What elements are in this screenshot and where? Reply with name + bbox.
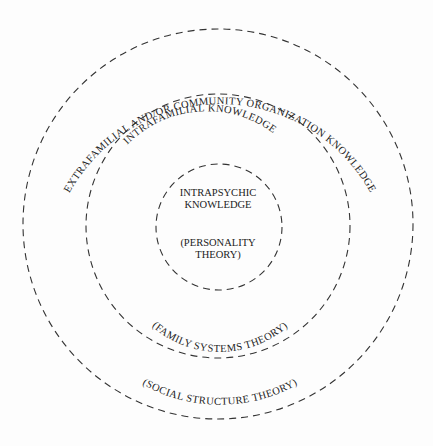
inner-label-line2: KNOWLEDGE — [184, 199, 251, 210]
outer-ring-bottom-label: (SOCIAL STRUCTURE THEORY) — [141, 376, 300, 407]
inner-label-line1: INTRAPSYCHIC — [180, 187, 256, 198]
inner-ring — [156, 164, 282, 290]
outer-ring — [23, 29, 413, 419]
inner-sublabel-line2: THEORY) — [195, 249, 241, 261]
concentric-knowledge-diagram: EXTRAFAMILIAL AND/OR COMMUNITY ORGANIZAT… — [0, 0, 433, 446]
inner-sublabel-line1: (PERSONALITY — [180, 237, 256, 249]
diagram-canvas: EXTRAFAMILIAL AND/OR COMMUNITY ORGANIZAT… — [0, 0, 433, 446]
